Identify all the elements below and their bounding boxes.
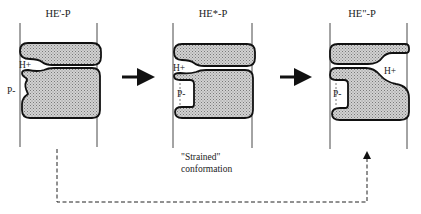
- enzyme-bottom-subunit: [330, 68, 409, 120]
- proton-label: H+: [384, 66, 396, 76]
- panel-1-title: HE'-P: [45, 8, 70, 19]
- panel-1: HE'-P H+ P-: [7, 8, 101, 147]
- caption-line-2: conformation: [181, 164, 232, 174]
- dashed-arrowhead-icon: [363, 151, 371, 159]
- phosphate-label: P-: [333, 89, 341, 99]
- enzyme-bottom-subunit: [22, 68, 100, 118]
- panel-2-title: HE*-P: [199, 8, 228, 19]
- phosphate-label: P-: [7, 86, 15, 96]
- phosphate-label: P-: [177, 89, 185, 99]
- caption-line-1: "Strained": [181, 152, 221, 162]
- enzyme-top-subunit: [20, 43, 101, 65]
- panel-3: HE"-P H+ P-: [330, 8, 409, 149]
- diagram-canvas: HE'-P H+ P- HE*-P H+ P- "Strained" confo…: [0, 0, 421, 214]
- panel-3-title: HE"-P: [348, 8, 376, 19]
- proton-label: H+: [19, 60, 31, 70]
- panel-2: HE*-P H+ P- "Strained" conformation: [173, 8, 255, 174]
- enzyme-top-subunit: [330, 44, 409, 64]
- enzyme-bottom-subunit: [174, 70, 253, 118]
- enzyme-top-subunit: [174, 44, 255, 66]
- proton-label: H+: [173, 63, 185, 73]
